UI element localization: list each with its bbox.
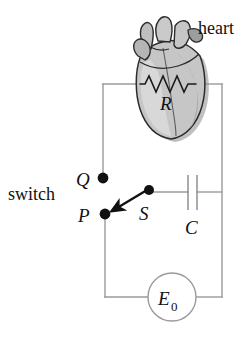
switch-contact-p[interactable] [100, 209, 111, 220]
circuit-diagram-canvas: heart R switch Q P S C E 0 [0, 0, 249, 344]
label-contact-q: Q [76, 169, 90, 190]
label-emf-subscript: 0 [171, 299, 178, 314]
label-contact-p: P [77, 205, 90, 226]
label-heart: heart [198, 18, 234, 38]
heart-aorta [156, 17, 172, 42]
heart-left-atrium [134, 39, 151, 60]
label-switch: switch [8, 184, 55, 204]
label-capacitor-c: C [185, 217, 198, 238]
circuit-diagram-figure: heart R switch Q P S C E 0 [0, 0, 249, 344]
label-switch-arm-s: S [139, 203, 149, 224]
switch-contact-q[interactable] [98, 173, 109, 184]
switch-pivot-s[interactable] [144, 185, 154, 195]
label-resistor-r: R [159, 93, 172, 114]
capacitor-symbol [188, 175, 197, 210]
label-emf: E [157, 288, 170, 309]
